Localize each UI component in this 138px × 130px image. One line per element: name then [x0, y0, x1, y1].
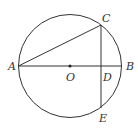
geometry-diagram: A B O C D E [0, 0, 138, 130]
label-B: B [125, 60, 134, 73]
label-O: O [66, 71, 75, 84]
label-E: E [98, 112, 107, 125]
center-point-O [69, 65, 72, 68]
label-A: A [7, 60, 16, 73]
label-D: D [102, 71, 112, 84]
label-C: C [102, 12, 111, 25]
chord-AC [19, 25, 102, 66]
